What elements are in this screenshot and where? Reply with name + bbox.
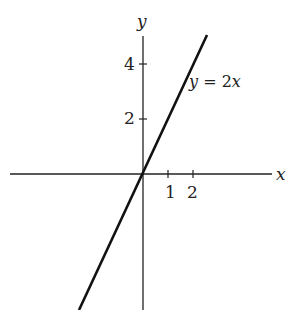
y-tick-label-2: 2: [124, 108, 135, 128]
graph-svg: 1 2 2 4 x y y = 2x: [0, 0, 304, 310]
equation-label: y = 2x: [188, 72, 241, 91]
y-axis-label: y: [136, 11, 147, 31]
x-tick-label-2: 2: [187, 182, 198, 202]
x-tick-label-1: 1: [165, 182, 176, 202]
y-tick-label-4: 4: [124, 54, 135, 74]
x-axis-label: x: [276, 164, 286, 184]
graph-figure: 1 2 2 4 x y y = 2x: [0, 0, 304, 310]
